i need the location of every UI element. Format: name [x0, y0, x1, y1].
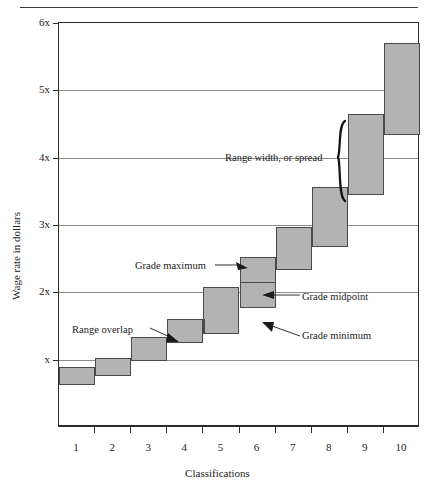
grade-range-bar — [312, 187, 348, 247]
grade-range-bar — [59, 367, 95, 385]
y-axis-tick — [53, 292, 59, 293]
figure-page: Wage rate in dollars x2x3x4x5x6x 1234567… — [0, 0, 435, 499]
grade-midpoint-line — [240, 282, 276, 283]
annotation-grade-maximum: Grade maximum — [135, 260, 206, 271]
x-axis-tick — [130, 426, 131, 433]
y-axis-tick — [53, 90, 59, 91]
grade-range-bar — [384, 43, 420, 135]
grade-range-bar — [167, 319, 203, 343]
x-axis-tick-label: 2 — [109, 441, 115, 453]
y-axis-tick — [53, 360, 59, 361]
x-axis-tick-label: 9 — [362, 441, 368, 453]
x-axis-tick — [166, 426, 167, 433]
y-axis-tick-label: 6x — [39, 17, 50, 28]
x-axis-tick-label: 10 — [395, 441, 406, 453]
y-axis-tick — [53, 158, 59, 159]
x-axis-tick — [275, 426, 276, 433]
x-axis-tick — [94, 426, 95, 433]
annotation-range-width: Range width, or spread — [225, 152, 322, 163]
x-axis-tick — [383, 426, 384, 433]
y-axis-tick — [53, 23, 59, 24]
x-axis-title: Classifications — [0, 467, 435, 479]
x-axis-tick-label: 7 — [290, 441, 296, 453]
grid-line — [59, 225, 418, 226]
y-axis-tick-label: x — [45, 354, 51, 365]
grade-range-bar — [203, 287, 239, 334]
y-axis-title: Wage rate in dollars — [10, 212, 22, 300]
y-axis-tick-label: 2x — [39, 286, 50, 297]
page-top-rule — [20, 7, 418, 8]
grade-range-bar — [131, 337, 167, 361]
annotation-grade-midpoint: Grade midpoint — [302, 291, 368, 302]
x-axis-tick-label: 6 — [254, 441, 260, 453]
grade-range-bar — [95, 358, 131, 376]
grade-range-bar — [276, 227, 312, 270]
grade-range-bar — [348, 114, 384, 195]
x-axis-tick-label: 1 — [73, 441, 79, 453]
y-axis-tick-label: 3x — [39, 219, 50, 230]
x-axis-tick-label: 8 — [326, 441, 332, 453]
y-axis-tick-label: 4x — [39, 152, 50, 163]
x-axis-tick — [311, 426, 312, 433]
x-axis-tick — [202, 426, 203, 433]
plot-area: x2x3x4x5x6x — [58, 22, 419, 426]
x-axis-tick — [347, 426, 348, 433]
annotation-range-overlap: Range overlap — [72, 324, 133, 335]
y-axis-tick-label: 5x — [39, 84, 50, 95]
x-axis-tick-label: 3 — [146, 441, 152, 453]
x-axis-tick — [239, 426, 240, 433]
grid-line — [59, 90, 418, 91]
annotation-grade-minimum: Grade minimum — [302, 330, 371, 341]
y-axis-tick — [53, 225, 59, 226]
x-axis-tick-label: 4 — [182, 441, 188, 453]
x-axis-tick-label: 5 — [218, 441, 224, 453]
range-overlap-region — [203, 319, 205, 334]
